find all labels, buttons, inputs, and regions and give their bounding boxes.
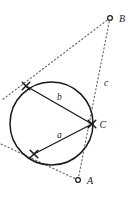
point-label-C: C	[100, 119, 107, 130]
point-marker-B	[108, 16, 113, 21]
geometry-canvas: B A C b a c	[0, 0, 133, 198]
point-marker-lower-intersection	[30, 150, 38, 158]
point-marker-A	[76, 178, 81, 183]
dotted-line-B-to-A-through-C	[78, 18, 110, 180]
labels-group: B A C b a c	[57, 13, 125, 186]
open-point-markers-group	[76, 16, 113, 183]
geometry-figure: B A C b a c	[0, 0, 133, 198]
point-label-B: B	[119, 13, 125, 24]
point-label-A: A	[86, 175, 94, 186]
segment-label-c: c	[104, 78, 109, 88]
point-marker-upper-intersection	[22, 82, 30, 90]
segment-label-a: a	[57, 130, 62, 140]
segment-label-b: b	[57, 92, 62, 102]
circle-outline	[10, 82, 93, 165]
dotted-line-B-through-upper-intersection	[2, 18, 110, 100]
